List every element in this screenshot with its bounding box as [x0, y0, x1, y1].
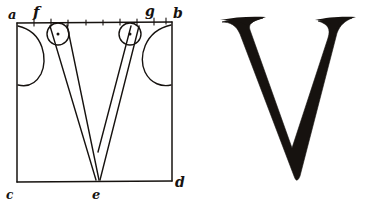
serif-circle-f-center-dot: [57, 33, 60, 36]
serif-arc-left: [18, 26, 44, 86]
thin-stroke-left-edge: [98, 26, 131, 152]
letter-v-right-serif: [315, 17, 356, 29]
serif-circle-g: [119, 23, 141, 45]
letter-v-glyph: [222, 18, 352, 180]
thick-stroke-outline: [50, 25, 99, 180]
thin-stroke-outline: [98, 26, 139, 180]
letter-specimen-panel: V: [200, 0, 378, 207]
square-bottom-edge: [17, 181, 172, 182]
thick-stroke-right-edge: [67, 25, 99, 180]
point-label-f: f: [32, 3, 42, 21]
letter-specimen-svg: V: [200, 0, 378, 207]
point-label-d: d: [175, 174, 185, 190]
thin-stroke-right-edge: [100, 26, 139, 180]
point-label-c: c: [6, 188, 14, 202]
point-label-a: a: [8, 7, 16, 22]
point-label-g: g: [145, 3, 155, 19]
point-label-b: b: [173, 5, 183, 21]
construction-diagram-panel: a f g b c e d: [0, 0, 200, 207]
serif-arc-right: [142, 25, 171, 86]
thick-stroke-left-edge: [50, 26, 96, 180]
square-top-edge: [17, 22, 172, 23]
construction-diagram-svg: a f g b c e d: [0, 0, 200, 207]
letter-construction-plate: a f g b c e d V: [0, 0, 378, 207]
point-label-e: e: [92, 187, 100, 202]
